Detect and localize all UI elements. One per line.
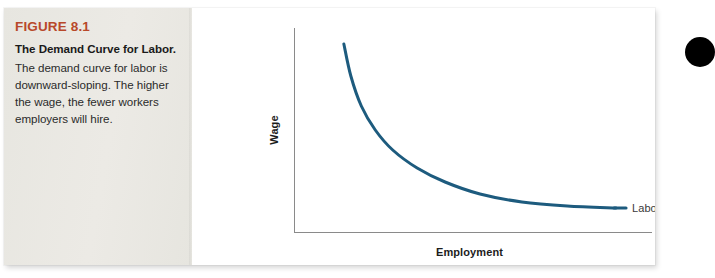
- y-axis-label: Wage: [268, 115, 280, 144]
- figure-caption-panel: FIGURE 8.1 The Demand Curve for Labor. T…: [4, 8, 192, 265]
- page-bullet-dot: [685, 37, 715, 67]
- labor-demand-curve: [344, 44, 616, 208]
- figure-title: The Demand Curve for Labor.: [15, 41, 181, 56]
- x-axis-label: Employment: [436, 246, 503, 258]
- chart-plot-area: Labor demand Employment Wage: [192, 8, 655, 265]
- figure-number: FIGURE 8.1: [15, 20, 181, 35]
- figure-card: FIGURE 8.1 The Demand Curve for Labor. T…: [4, 8, 655, 265]
- labor-demand-label: Labor demand: [632, 202, 655, 214]
- demand-curve-chart: Labor demand Employment Wage: [192, 8, 655, 265]
- figure-description: The demand curve for labor is downward-s…: [15, 60, 181, 128]
